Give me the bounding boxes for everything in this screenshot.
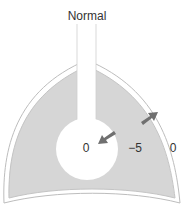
lung-pressure-diagram: Normal 0 −5 0 <box>0 0 185 212</box>
atmospheric-pressure-label: 0 <box>170 141 177 155</box>
pleural-pressure-label: −5 <box>128 141 142 155</box>
airway-pressure-label: 0 <box>83 141 90 155</box>
diagram-svg: Normal 0 −5 0 <box>0 0 185 212</box>
airway-tube <box>77 24 96 128</box>
diagram-title: Normal <box>68 9 107 23</box>
